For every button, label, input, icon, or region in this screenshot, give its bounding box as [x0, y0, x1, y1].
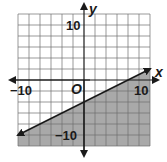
- x-axis-label: x: [154, 64, 164, 80]
- y-tick-neg10: −10: [55, 128, 77, 143]
- x-tick-pos10: 10: [134, 83, 148, 98]
- y-axis-label: y: [88, 1, 98, 17]
- coordinate-plane: x y O −10 10 10 −10: [0, 0, 167, 162]
- origin-label: O: [71, 81, 82, 97]
- y-tick-pos10: 10: [66, 18, 80, 33]
- x-tick-neg10: −10: [10, 83, 32, 98]
